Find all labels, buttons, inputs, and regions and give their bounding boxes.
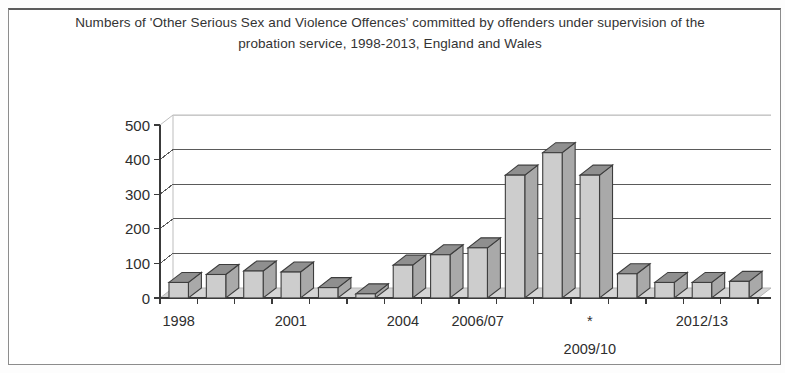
screenshot-page: Numbers of 'Other Serious Sex and Violen… <box>0 0 785 373</box>
bar-front-face <box>356 294 375 298</box>
bar-front-face <box>431 255 450 298</box>
x-axis-label-200607: 2006/07 <box>451 313 503 329</box>
y-axis-label-100: 100 <box>125 255 150 272</box>
gridline-connector-100 <box>160 253 173 263</box>
bar-side-face <box>525 165 538 298</box>
chart-plot-area: 01002003004005001998200120042006/07*2009… <box>0 0 785 373</box>
bar-side-face <box>600 165 613 298</box>
x-axis-label-: * <box>587 313 593 329</box>
bar-front-face <box>244 271 263 298</box>
bar-2009/10 <box>580 165 612 298</box>
gridline-connector-400 <box>160 150 173 160</box>
bar-front-face <box>206 274 225 298</box>
bar-front-face <box>169 282 188 298</box>
bar-front-face <box>655 282 674 298</box>
y-axis-label-200: 200 <box>125 220 150 237</box>
x-axis-label-2001: 2001 <box>275 313 307 329</box>
bar-chart-graphic: 01002003004005001998200120042006/07*2009… <box>0 0 785 373</box>
bar-2008/09 <box>543 143 575 298</box>
bar-front-face <box>505 175 524 298</box>
y-axis-label-0: 0 <box>142 290 150 307</box>
bar-front-face <box>318 288 337 298</box>
x-axis-label-200910: 2009/10 <box>564 341 616 357</box>
bar-front-face <box>617 274 636 298</box>
bar-front-face <box>468 248 487 298</box>
x-axis-label-201213: 2012/13 <box>676 313 728 329</box>
gridline-connector-300 <box>160 184 173 194</box>
bar-side-face <box>562 143 575 298</box>
x-axis-label-1998: 1998 <box>163 313 195 329</box>
gridline-connector-200 <box>160 219 173 229</box>
x-axis-label-2004: 2004 <box>387 313 419 329</box>
bar-front-face <box>543 153 562 298</box>
bar-front-face <box>692 282 711 298</box>
bar-front-face <box>393 265 412 298</box>
bar-2005 <box>431 245 463 298</box>
plot-back-wall-top <box>160 115 771 125</box>
y-axis-label-300: 300 <box>125 186 150 203</box>
bar-front-face <box>580 175 599 298</box>
bar-front-face <box>730 281 749 298</box>
y-axis-label-400: 400 <box>125 151 150 168</box>
y-axis-label-500: 500 <box>125 117 150 134</box>
bar-front-face <box>281 272 300 298</box>
bar-2006/07 <box>468 238 500 298</box>
bar-2004 <box>393 255 425 298</box>
bar-2007/08 <box>505 165 537 298</box>
